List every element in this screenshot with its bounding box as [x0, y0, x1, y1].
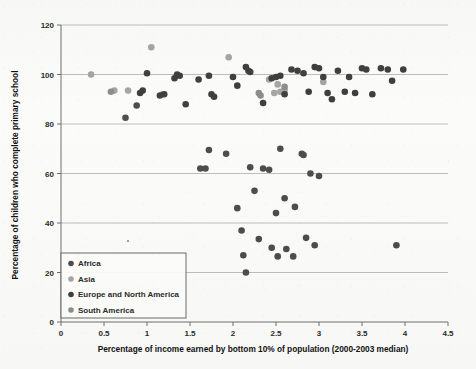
- data-point: [122, 115, 129, 122]
- data-point: [268, 244, 275, 251]
- data-point: [223, 150, 230, 157]
- y-tick-label-20: 20: [45, 269, 54, 278]
- legend-marker-icon: [68, 307, 74, 313]
- data-point: [274, 81, 281, 88]
- data-point: [271, 90, 278, 97]
- data-point: [281, 84, 288, 91]
- data-point: [133, 102, 140, 109]
- data-point: [195, 76, 202, 83]
- x-tick-label-4: 4: [403, 329, 408, 338]
- data-point: [277, 72, 284, 79]
- data-point: [257, 92, 264, 99]
- y-tick-labels: 020406080100120: [41, 21, 55, 327]
- data-point: [260, 100, 267, 107]
- data-point: [238, 227, 245, 234]
- data-point: [281, 91, 288, 98]
- data-point: [266, 166, 273, 173]
- legend-item-south-america[interactable]: South America: [68, 306, 135, 315]
- data-point: [294, 67, 301, 74]
- data-point: [273, 210, 280, 217]
- x-tick-labels: 00.511.522.533.544.5: [59, 329, 454, 338]
- scan-specks: [127, 240, 129, 242]
- legend-item-label: South America: [78, 306, 135, 315]
- legend-marker-icon: [68, 276, 74, 282]
- scan-speck: [127, 240, 129, 242]
- data-point: [352, 90, 359, 97]
- data-point: [290, 253, 297, 260]
- y-tick-label-40: 40: [45, 219, 54, 228]
- data-point: [176, 72, 183, 79]
- legend: AfricaAsiaEurope and North AmericaSouth …: [61, 253, 186, 318]
- data-point: [303, 235, 310, 242]
- scatter-chart: 00.511.522.533.544.5 020406080100120 Afr…: [0, 0, 476, 369]
- y-tick-label-60: 60: [45, 170, 54, 179]
- data-point: [320, 74, 327, 81]
- data-point: [281, 195, 288, 202]
- data-point: [225, 54, 232, 61]
- data-point: [274, 253, 281, 260]
- data-point: [288, 66, 295, 73]
- data-point: [324, 90, 331, 97]
- x-tick-label-2: 2: [231, 329, 236, 338]
- data-point: [247, 69, 254, 76]
- series-africa: [122, 102, 400, 276]
- data-point: [277, 145, 284, 152]
- y-tick-label-120: 120: [41, 21, 55, 30]
- data-point: [400, 66, 407, 73]
- data-point: [211, 93, 218, 100]
- data-point: [251, 188, 258, 195]
- y-tick-label-80: 80: [45, 120, 54, 129]
- legend-item-label: Asia: [78, 275, 95, 284]
- data-point: [234, 82, 241, 89]
- data-point: [311, 242, 318, 249]
- y-tick-label-100: 100: [41, 71, 55, 80]
- data-point: [206, 72, 213, 79]
- x-tick-label-1: 1: [145, 329, 150, 338]
- data-point: [240, 252, 247, 259]
- data-point: [363, 66, 370, 73]
- data-point: [88, 71, 95, 78]
- data-point: [144, 70, 151, 77]
- data-point: [389, 77, 396, 84]
- data-point: [292, 204, 299, 211]
- gridlines-group: [61, 25, 448, 273]
- data-point: [161, 91, 168, 98]
- data-point: [234, 205, 241, 212]
- data-point: [206, 147, 213, 154]
- x-tick-label-4.5: 4.5: [442, 329, 454, 338]
- data-point: [148, 44, 155, 51]
- data-point: [260, 165, 267, 172]
- series-south-america: [108, 84, 288, 99]
- x-tick-label-1.5: 1.5: [184, 329, 196, 338]
- data-point: [369, 91, 376, 98]
- y-tick-label-0: 0: [50, 318, 55, 327]
- data-point: [300, 152, 307, 159]
- data-points-group: [88, 44, 407, 276]
- legend-item-europe-and-north-america[interactable]: Europe and North America: [68, 290, 179, 299]
- data-point: [307, 170, 314, 177]
- data-point: [378, 65, 385, 72]
- y-axis-title: Percentage of children who complete prim…: [10, 71, 20, 280]
- data-point: [243, 269, 250, 276]
- data-point: [247, 164, 254, 171]
- data-point: [335, 67, 342, 74]
- data-point: [329, 96, 336, 103]
- x-tick-label-0.5: 0.5: [98, 329, 110, 338]
- legend-marker-icon: [68, 261, 74, 267]
- data-point: [139, 87, 146, 94]
- data-point: [385, 66, 392, 73]
- x-tick-label-3.5: 3.5: [356, 329, 368, 338]
- x-axis-title: Percentage of income earned by bottom 10…: [98, 344, 409, 354]
- data-point: [393, 242, 400, 249]
- legend-item-label: Europe and North America: [78, 290, 180, 299]
- data-point: [316, 65, 323, 72]
- data-point: [342, 89, 349, 96]
- data-point: [202, 165, 209, 172]
- series-europe-and-north-america: [137, 64, 407, 108]
- data-point: [108, 89, 115, 96]
- x-tick-label-0: 0: [59, 329, 64, 338]
- data-point: [305, 89, 312, 96]
- legend-marker-icon: [68, 292, 74, 298]
- data-point: [230, 74, 237, 81]
- data-point: [316, 173, 323, 180]
